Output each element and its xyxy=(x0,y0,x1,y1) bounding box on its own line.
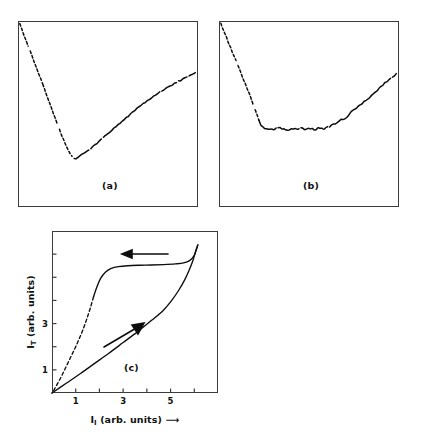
trace-a-curve xyxy=(20,24,72,157)
lower-direction-arrow xyxy=(104,323,144,347)
decreasing-branch-curve xyxy=(94,245,198,297)
panel-b-caption: (b) xyxy=(303,180,319,191)
x-tick-label: 5 xyxy=(168,396,174,406)
upper-direction-arrow xyxy=(122,250,168,258)
x-axis-units: (arb. units) xyxy=(100,414,162,425)
trace-a-curve-solid xyxy=(74,73,195,159)
y-axis-units: (arb. units) xyxy=(25,275,36,337)
y-axis-title: IT (arb. units) xyxy=(25,275,36,349)
y-tick-label: 3 xyxy=(39,319,48,329)
trace-b-curve xyxy=(221,23,259,120)
trace-b-curve-solid xyxy=(259,74,396,131)
x-axis-subscript: I xyxy=(94,419,97,427)
x-axis-arrow-icon: ⟶ xyxy=(166,414,180,425)
x-axis-title: II (arb. units) ⟶ xyxy=(90,414,179,425)
x-axis-title-text: II (arb. units) xyxy=(90,414,161,425)
figure-root: (a) (b) (c) 13513 xyxy=(0,0,421,445)
y-axis-symbol: I xyxy=(25,345,36,349)
panel-c-caption: (c) xyxy=(124,362,139,373)
y-tick-label: 1 xyxy=(39,365,48,375)
x-tick-label: 3 xyxy=(120,396,126,406)
panel-a-caption: (a) xyxy=(102,180,118,191)
x-tick-label: 1 xyxy=(73,396,79,406)
y-axis-subscript: T xyxy=(30,340,38,345)
